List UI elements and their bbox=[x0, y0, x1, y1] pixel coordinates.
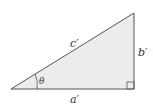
right-triangle-diagram: c′ b′ a′ θ bbox=[0, 0, 153, 108]
label-angle: θ bbox=[39, 76, 45, 86]
triangle-shape bbox=[11, 13, 134, 89]
label-adjacent: a′ bbox=[70, 93, 80, 106]
label-hypotenuse: c′ bbox=[70, 37, 79, 50]
label-opposite: b′ bbox=[138, 46, 148, 59]
